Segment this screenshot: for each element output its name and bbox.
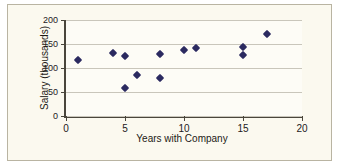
y-axis-title: Salary (thousands) — [39, 26, 50, 110]
y-tick — [61, 68, 66, 69]
data-point — [109, 48, 117, 56]
x-tick — [243, 116, 244, 121]
y-tick — [61, 44, 66, 45]
chart-figure: 050100150200 05101520 Salary (thousands)… — [7, 4, 332, 161]
x-axis-title: Years with Company — [64, 133, 300, 144]
y-tick — [61, 92, 66, 93]
data-point — [121, 52, 129, 60]
data-point — [180, 46, 188, 54]
gridline — [66, 68, 302, 69]
x-tick — [302, 116, 303, 121]
data-point — [133, 70, 141, 78]
data-point — [156, 74, 164, 82]
y-tick-label: 0 — [53, 111, 58, 121]
data-point — [74, 56, 82, 64]
y-tick-label: 200 — [43, 15, 58, 25]
y-tick — [61, 20, 66, 21]
scatter-plot-area: 050100150200 05101520 Salary (thousands) — [64, 20, 302, 118]
gridline — [66, 20, 302, 21]
x-tick — [125, 116, 126, 121]
data-point — [239, 50, 247, 58]
gridline — [66, 92, 302, 93]
x-tick — [66, 116, 67, 121]
x-tick — [184, 116, 185, 121]
data-point — [262, 30, 270, 38]
data-point — [156, 49, 164, 57]
